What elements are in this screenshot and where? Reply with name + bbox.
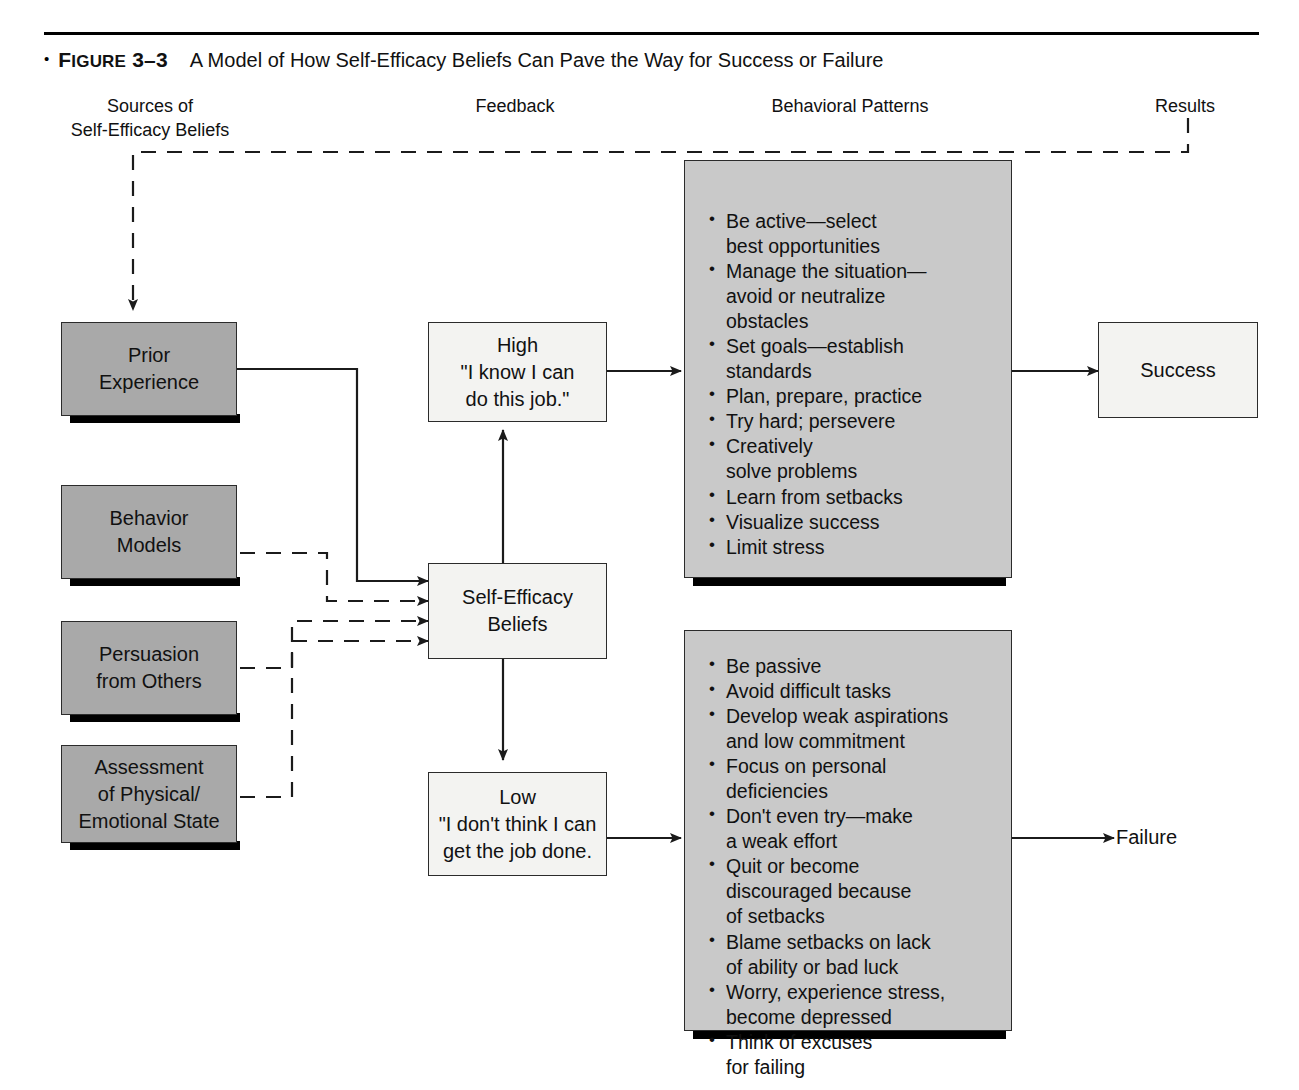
- behavior-list-item: Worry, experience stress, become depress…: [707, 980, 1011, 1030]
- behavior-list-item: Visualize success: [707, 510, 1011, 535]
- feedback-label-low: Low "I don't think I can get the job don…: [439, 784, 597, 865]
- behavior-list-item: Avoid difficult tasks: [707, 679, 1011, 704]
- source-label-prior-experience: Prior Experience: [99, 342, 199, 396]
- behavior-list-item: Limit stress: [707, 535, 1011, 560]
- behavior-list-item: Don't even try—make a weak effort: [707, 804, 1011, 854]
- source-label-assessment-of-state: Assessment of Physical/ Emotional State: [78, 754, 219, 835]
- feedback-box-self-efficacy: Self-Efficacy Beliefs: [428, 563, 607, 659]
- behavior-list-item: Try hard; persevere: [707, 409, 1011, 434]
- behavior-list-low: Be passiveAvoid difficult tasksDevelop w…: [684, 630, 1012, 1031]
- behavior-list-item: Blame setbacks on lack of ability or bad…: [707, 930, 1011, 980]
- result-label-failure: Failure: [1116, 826, 1177, 849]
- behavior-list-item: Plan, prepare, practice: [707, 384, 1011, 409]
- behavior-list-high-items: Be active—select best opportunitiesManag…: [685, 161, 1011, 560]
- behavior-list-item: Learn from setbacks: [707, 485, 1011, 510]
- behavior-list-item: Be active—select best opportunities: [707, 209, 1011, 259]
- feedback-box-high: High "I know I can do this job.": [428, 322, 607, 422]
- source-label-behavior-models: Behavior Models: [110, 505, 189, 559]
- behavior-list-high: Be active—select best opportunitiesManag…: [684, 160, 1012, 578]
- behavior-list-item: Creatively solve problems: [707, 434, 1011, 484]
- result-label-success: Success: [1140, 357, 1216, 384]
- behavior-list-item: Set goals—establish standards: [707, 334, 1011, 384]
- source-label-persuasion-from-others: Persuasion from Others: [96, 641, 202, 695]
- source-box-behavior-models: Behavior Models: [61, 485, 237, 579]
- figure-page: • FIGURE 3–3 A Model of How Self-Efficac…: [0, 0, 1299, 1090]
- feedback-box-low: Low "I don't think I can get the job don…: [428, 772, 607, 876]
- source-box-persuasion-from-others: Persuasion from Others: [61, 621, 237, 715]
- feedback-label-high: High "I know I can do this job.": [461, 332, 575, 413]
- behavior-list-item: Develop weak aspirations and low commitm…: [707, 704, 1011, 754]
- source-box-assessment-of-state: Assessment of Physical/ Emotional State: [61, 745, 237, 843]
- behavior-list-item: Be passive: [707, 654, 1011, 679]
- result-box-success: Success: [1098, 322, 1258, 418]
- behavior-list-item: Focus on personal deficiencies: [707, 754, 1011, 804]
- feedback-label-self-efficacy: Self-Efficacy Beliefs: [462, 584, 573, 638]
- behavior-list-low-items: Be passiveAvoid difficult tasksDevelop w…: [685, 631, 1011, 1080]
- behavior-list-item: Manage the situation— avoid or neutraliz…: [707, 259, 1011, 334]
- source-box-prior-experience: Prior Experience: [61, 322, 237, 416]
- behavior-list-item: Quit or become discouraged because of se…: [707, 854, 1011, 929]
- behavior-list-item: Think of excuses for failing: [707, 1030, 1011, 1080]
